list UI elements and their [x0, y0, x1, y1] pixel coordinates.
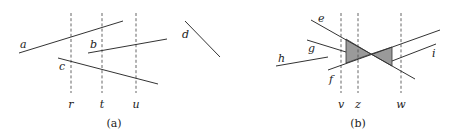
sweep-line-label-w: w — [396, 98, 406, 111]
segment-d — [185, 21, 220, 57]
segment-intersection-figure: rtuabcd vzwefghi (a) (b) — [0, 0, 458, 133]
segment-e — [311, 20, 415, 79]
sweep-line-label-z: z — [354, 98, 361, 111]
panel-b: vzwefghi — [276, 12, 440, 111]
segment-i — [392, 44, 436, 61]
sweep-line-label-r: r — [68, 98, 74, 111]
segment-label-e: e — [318, 12, 325, 25]
segment-label-b: b — [90, 38, 97, 51]
sweep-line-label-u: u — [132, 98, 139, 111]
segment-label-c: c — [59, 60, 65, 73]
segment-label-h: h — [278, 52, 285, 65]
segment-label-f: f — [328, 73, 335, 86]
segment-c — [58, 58, 158, 84]
panel-b-caption: (b) — [350, 117, 366, 130]
segment-b — [88, 39, 167, 53]
panel-a-caption: (a) — [106, 117, 121, 130]
segment-label-i: i — [432, 47, 436, 60]
segment-label-g: g — [308, 42, 315, 55]
segment-label-a: a — [20, 38, 27, 51]
panel-a: rtuabcd — [19, 13, 220, 111]
sweep-line-label-t: t — [100, 98, 105, 111]
shaded-region-right-wedge — [371, 47, 392, 66]
sweep-line-label-v: v — [338, 98, 345, 111]
segment-label-d: d — [182, 28, 189, 41]
segment-f — [328, 30, 440, 70]
